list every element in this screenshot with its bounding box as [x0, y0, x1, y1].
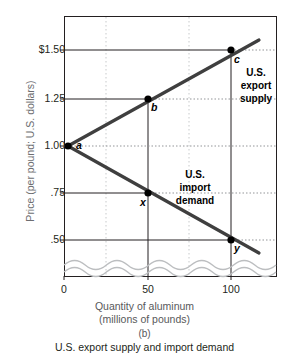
export-supply-label-line3: supply — [234, 92, 278, 105]
export-supply-label-line1: U.S. — [234, 66, 278, 79]
x-tick-label-0: 0 — [44, 283, 84, 295]
x-axis-label: Quantity of aluminum — [0, 300, 289, 312]
import-demand-label-line2: import — [168, 181, 222, 194]
panel-letter: (b) — [0, 328, 289, 339]
import-demand-label-line3: demand — [168, 194, 222, 207]
figure-panel-b: Price (per pound; U.S. dollars) $1.50 1.… — [0, 0, 289, 355]
y-axis-label: Price (per pound; U.S. dollars) — [24, 41, 36, 261]
y-tick-label-1-50: $1.50 — [19, 43, 65, 55]
point-label-y: y — [234, 242, 240, 254]
point-label-c: c — [234, 53, 240, 65]
x-axis-label-units: (millions of pounds) — [0, 313, 289, 325]
x-tick-label-50: 50 — [128, 283, 168, 295]
x-tick-label-100: 100 — [211, 283, 251, 295]
export-supply-label: U.S. export supply — [234, 66, 278, 105]
point-label-b: b — [151, 101, 157, 113]
y-tick-label-1-00: 1.00 — [19, 139, 65, 151]
point-label-x: x — [140, 196, 146, 208]
import-demand-label-line1: U.S. — [168, 168, 222, 181]
y-tick-label-0-75: .75 — [19, 186, 65, 198]
y-tick-label-1-25: 1.25 — [19, 92, 65, 104]
export-supply-label-line2: export — [234, 79, 278, 92]
figure-caption: U.S. export supply and import demand — [0, 341, 289, 353]
y-tick-label-0-50: .50 — [19, 233, 65, 245]
data-point-a — [64, 142, 71, 149]
point-label-a: a — [76, 139, 82, 151]
import-demand-label: U.S. import demand — [168, 168, 222, 207]
